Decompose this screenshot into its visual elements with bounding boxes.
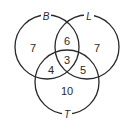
region-b-l-t: 3	[64, 54, 70, 66]
label-t: T	[64, 109, 71, 120]
region-b-l: 6	[64, 35, 70, 47]
region-l-t: 5	[80, 64, 86, 76]
label-l: L	[86, 11, 92, 22]
region-l-only: 7	[94, 42, 100, 54]
region-b-only: 7	[30, 42, 36, 54]
venn-diagram: B L T 7 6 7 3 4 5 10	[0, 0, 127, 131]
label-b: B	[43, 11, 50, 22]
region-t-only: 10	[61, 85, 73, 97]
circle-l	[55, 15, 119, 79]
region-b-t: 4	[48, 64, 54, 76]
